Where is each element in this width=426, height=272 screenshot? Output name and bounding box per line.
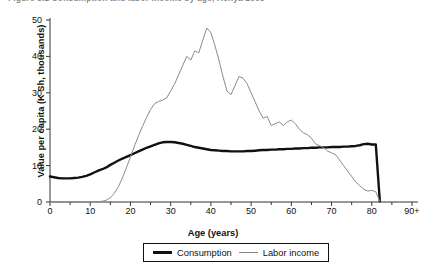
chart-legend: Consumption Labor income bbox=[143, 243, 329, 262]
figure-root: Figure 3.1 Consumption and labor income … bbox=[0, 0, 426, 272]
legend-swatch-consumption bbox=[153, 251, 172, 253]
plot-area bbox=[0, 0, 426, 272]
data-series bbox=[50, 28, 380, 202]
legend-label-consumption: Consumption bbox=[177, 248, 232, 258]
legend-label-labor-income: Labor income bbox=[263, 248, 319, 258]
legend-item-labor-income[interactable]: Labor income bbox=[239, 248, 319, 258]
legend-item-consumption[interactable]: Consumption bbox=[153, 248, 232, 258]
series-line-consumption bbox=[50, 142, 380, 201]
legend-swatch-labor-income bbox=[239, 252, 258, 253]
axes bbox=[46, 18, 418, 206]
series-line-labor-income bbox=[50, 28, 380, 202]
